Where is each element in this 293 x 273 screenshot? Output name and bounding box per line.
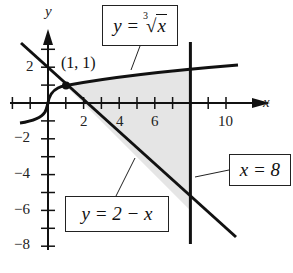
y-tick-label-2: 2 xyxy=(26,58,34,75)
label-cube-root: y = 3√x xyxy=(102,5,178,46)
y-tick-label-m2: −2 xyxy=(14,129,30,146)
x-tick-label-6: 6 xyxy=(151,113,159,130)
label-x-equals-8: x = 8 xyxy=(229,154,291,186)
radicand: x xyxy=(156,14,166,36)
label-y-equals-2-minus-x: y = 2 − x xyxy=(65,196,169,232)
y-tick-label-m4: −4 xyxy=(14,165,30,182)
leader-2-minus-x xyxy=(116,158,135,196)
leader-cube-root xyxy=(131,46,140,70)
leader-x-8 xyxy=(195,170,229,177)
y-axis-arrow xyxy=(43,29,53,45)
y-tick-label-m6: −6 xyxy=(14,201,30,218)
y-axis-label: y xyxy=(45,3,52,20)
intersection-point xyxy=(62,82,70,90)
x-tick-label-10: 10 xyxy=(218,113,233,130)
x-tick-label-2: 2 xyxy=(80,113,88,130)
radical-index: 3 xyxy=(143,10,148,21)
y-tick-label-m8: −8 xyxy=(14,236,30,253)
point-label: (1, 1) xyxy=(61,54,96,72)
label-cube-root-prefix: y = xyxy=(113,15,144,37)
radical-icon: 3√x xyxy=(144,15,167,37)
x-tick-label-4: 4 xyxy=(116,113,124,130)
x-axis-label: x xyxy=(263,94,270,111)
